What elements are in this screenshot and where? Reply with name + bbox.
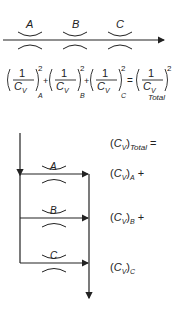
series-label-c: C xyxy=(116,19,124,30)
term-b-denominator: CV xyxy=(56,81,69,96)
term-c-exponent: 2 xyxy=(121,63,125,74)
base-sub: V xyxy=(122,144,127,151)
op: = xyxy=(150,137,156,149)
op: + xyxy=(138,211,144,223)
parallel-eq-b: (CV)B + xyxy=(110,212,144,227)
parallel-label-c: C xyxy=(50,250,57,261)
term-a-numerator: 1 xyxy=(19,68,25,79)
den: C xyxy=(56,80,64,92)
subscript: C xyxy=(130,268,135,275)
den: C xyxy=(14,80,22,92)
base: C xyxy=(114,261,122,273)
base: C xyxy=(114,211,122,223)
parallel-label-b: B xyxy=(50,205,57,216)
term-total-exponent: 2 xyxy=(167,63,171,74)
subscript: B xyxy=(130,218,135,225)
subscript: Total xyxy=(130,143,147,152)
den-sub: V xyxy=(105,87,110,94)
base-sub: V xyxy=(122,268,127,275)
base: C xyxy=(114,137,122,149)
op-plus-2: + xyxy=(84,76,89,87)
den: C xyxy=(143,80,151,92)
diagram-graphics xyxy=(0,0,176,310)
parallel-eq-total: (CV)Total = xyxy=(110,138,157,153)
term-b-subscript: B xyxy=(80,90,85,101)
den: C xyxy=(97,80,105,92)
op-equals: = xyxy=(127,75,133,86)
subscript: A xyxy=(130,174,135,181)
den-sub: V xyxy=(22,87,27,94)
term-total-numerator: 1 xyxy=(148,68,154,79)
series-label-b: B xyxy=(72,19,79,30)
base-sub: V xyxy=(122,174,127,181)
den-sub: V xyxy=(64,87,69,94)
parallel-eq-c: (CV)C xyxy=(110,262,135,277)
parallel-label-a: A xyxy=(50,161,57,172)
term-c-subscript: C xyxy=(121,90,126,101)
term-total-subscript: Total xyxy=(148,92,165,103)
op: + xyxy=(138,167,144,179)
term-a-denominator: CV xyxy=(14,81,27,96)
parallel-eq-a: (CV)A + xyxy=(110,168,144,183)
base: C xyxy=(114,167,122,179)
op-plus-1: + xyxy=(43,76,48,87)
term-a-exponent: 2 xyxy=(38,63,42,74)
term-b-exponent: 2 xyxy=(80,63,84,74)
term-c-denominator: CV xyxy=(97,81,110,96)
term-a-subscript: A xyxy=(38,90,43,101)
series-label-a: A xyxy=(26,19,33,30)
term-c-numerator: 1 xyxy=(102,68,108,79)
base-sub: V xyxy=(122,218,127,225)
term-b-numerator: 1 xyxy=(61,68,67,79)
